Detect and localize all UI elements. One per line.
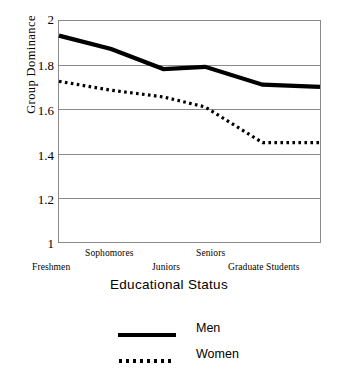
y-tick-label: 1.8 [24,59,54,72]
legend-item-men: Men [0,318,338,344]
solid-line-icon [118,330,176,340]
legend-item-women: Women [0,344,338,370]
gridlines [58,21,321,243]
chart-figure: Group Dominance 2 1.8 1.6 1.4 1.2 1 [0,0,338,378]
legend-swatch-dotted-icon [118,352,176,362]
legend-swatch-solid-icon [118,326,176,336]
x-axis-tick-labels: Freshmen Sophomores Juniors Seniors Grad… [0,243,338,277]
x-axis-title: Educational Status [0,277,338,292]
y-axis-tick-labels: 2 1.8 1.6 1.4 1.2 1 [18,0,54,263]
x-tick-label-graduate-students: Graduate Students [228,262,300,272]
x-tick-label-freshmen: Freshmen [32,262,70,272]
y-tick-label: 1.2 [24,193,54,206]
x-tick-label-sophomores: Sophomores [85,248,134,258]
plot-canvas [58,20,321,243]
legend-label-men: Men [196,321,220,335]
chart-legend: Men Women [0,318,338,370]
dotted-line-icon [118,356,176,366]
series-line-men [59,36,320,87]
plot-area [58,20,321,243]
legend-label-women: Women [196,347,239,361]
y-tick-label: 2 [24,13,54,26]
series-line-women [59,81,320,142]
y-tick-label: 1.4 [24,149,54,162]
x-tick-label-seniors: Seniors [196,248,225,258]
x-tick-label-juniors: Juniors [152,262,180,272]
y-tick-label: 1.6 [24,104,54,117]
